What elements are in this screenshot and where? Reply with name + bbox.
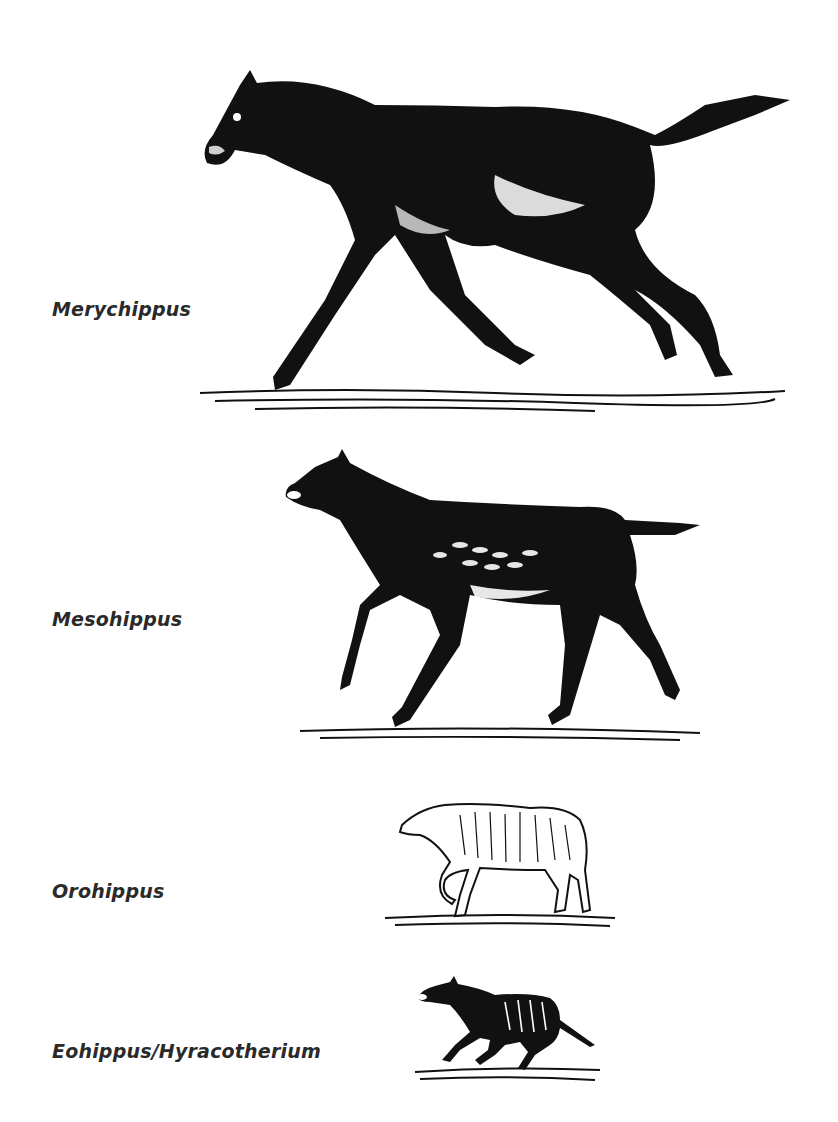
horse-silhouette-icon [280,445,710,745]
illustration-merychippus [195,55,795,425]
label-merychippus: Merychippus [52,298,191,320]
label-mesohippus: Mesohippus [52,608,182,630]
horse-silhouette-icon [195,55,795,425]
horse-silhouette-icon [380,800,620,935]
illustration-mesohippus [280,445,710,745]
illustration-orohippus [380,800,620,935]
label-orohippus: Orohippus [52,880,164,902]
illustration-eohippus [410,970,605,1090]
label-eohippus-hyracotherium: Eohippus/Hyracotherium [52,1040,321,1062]
horse-silhouette-icon [410,970,605,1090]
